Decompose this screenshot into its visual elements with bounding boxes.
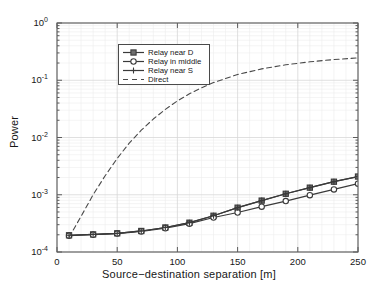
y-tick-mantissa: 10 [31, 246, 42, 257]
y-tick-mantissa: 10 [31, 189, 42, 200]
y-tick-exponent: 0 [44, 16, 48, 23]
legend: Relay near DRelay in middleRelay near SD… [118, 44, 210, 85]
x-axis-label: Source−destination separation [m] [0, 268, 378, 280]
x-tick-label: 150 [218, 256, 258, 267]
y-tick-label: 100 [8, 17, 48, 28]
legend-item-3: Direct [122, 75, 168, 84]
legend-sample-circle-open [122, 57, 146, 66]
y-tick-exponent: -2 [42, 130, 48, 137]
legend-label: Relay near S [148, 66, 193, 75]
x-tick-label: 200 [278, 256, 318, 267]
legend-item-2: Relay near S [122, 66, 193, 75]
x-tick-label: 50 [97, 256, 137, 267]
y-tick-label: 10-1 [8, 74, 48, 85]
legend-sample-square-filled [122, 48, 146, 57]
x-tick-label: 100 [157, 256, 197, 267]
x-tick-label: 0 [37, 256, 77, 267]
legend-sample-dashed-line [122, 75, 146, 84]
legend-label: Direct [148, 75, 168, 84]
legend-sample-plus [122, 66, 146, 75]
legend-label: Relay near D [148, 48, 194, 57]
y-tick-label: 10-4 [8, 246, 48, 257]
y-tick-label: 10-2 [8, 132, 48, 143]
legend-item-0: Relay near D [122, 48, 194, 57]
legend-item-1: Relay in middle [122, 57, 201, 66]
x-tick-label: 250 [338, 256, 378, 267]
y-tick-mantissa: 10 [31, 132, 42, 143]
legend-label: Relay in middle [148, 57, 201, 66]
y-tick-mantissa: 10 [34, 17, 45, 28]
y-tick-mantissa: 10 [31, 74, 42, 85]
chart-figure: Source−destination separation [m] Power … [0, 0, 378, 289]
y-tick-exponent: -1 [42, 73, 48, 80]
y-tick-exponent: -3 [42, 188, 48, 195]
y-tick-label: 10-3 [8, 189, 48, 200]
y-tick-exponent: -4 [42, 245, 48, 252]
